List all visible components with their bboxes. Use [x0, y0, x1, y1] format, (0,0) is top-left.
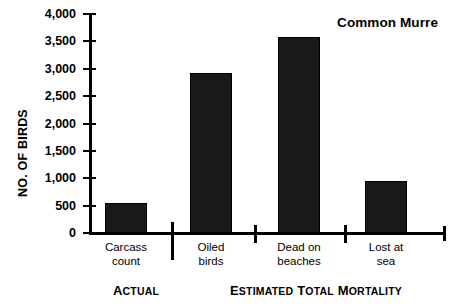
y-axis-tick-label-text: 4,000	[18, 8, 76, 21]
x-axis-category-label: Dead on beaches	[254, 240, 344, 268]
y-axis-tick	[83, 13, 96, 15]
y-axis-tick-label: 500	[18, 200, 76, 212]
y-axis-tick	[83, 177, 96, 179]
y-axis-tick	[83, 205, 96, 207]
y-axis-tick-label-text: 2,500	[18, 90, 76, 103]
y-axis-tick	[83, 123, 96, 125]
x-axis-tick-end	[443, 226, 446, 241]
y-axis-tick-label: 3,000	[18, 63, 76, 75]
group-label-actual: ACTUAL	[96, 283, 176, 298]
y-axis-tick-label: 2,500	[18, 90, 76, 102]
y-axis-tick-label-text: 3,000	[18, 63, 76, 76]
y-axis-tick-label-text: 500	[18, 200, 76, 213]
bar	[278, 37, 320, 233]
bar-chart: Common Murre NO. OF BIRDS 05001,0001,500…	[0, 0, 452, 308]
x-axis-category-label: Oiled birds	[166, 240, 256, 268]
y-axis-tick-label-text: 3,500	[18, 35, 76, 48]
y-axis-tick-label: 3,500	[18, 35, 76, 47]
y-axis-tick-label: 1,000	[18, 172, 76, 184]
y-axis-tick-label-text: 0	[18, 227, 76, 240]
y-axis-tick	[83, 40, 96, 42]
y-axis-tick-label: 0	[18, 227, 76, 239]
y-axis-tick-label-text: 1,500	[18, 145, 76, 158]
x-axis-category-label: Carcass count	[81, 240, 171, 268]
y-axis-tick-label-text: 2,000	[18, 118, 76, 131]
chart-title: Common Murre	[337, 15, 438, 30]
y-axis-tick-label: 1,500	[18, 145, 76, 157]
y-axis-tick	[83, 232, 96, 234]
bar	[190, 73, 232, 233]
group-label-estimated-text: ESTIMATED TOTAL MORTALITY	[230, 283, 402, 298]
group-label-actual-text: ACTUAL	[113, 283, 159, 298]
x-axis-category-label: Lost at sea	[341, 240, 431, 268]
bar	[365, 181, 407, 233]
y-axis-tick-label: 2,000	[18, 118, 76, 130]
bar	[105, 203, 147, 233]
y-axis-tick	[83, 150, 96, 152]
y-axis-tick-label-text: 1,000	[18, 172, 76, 185]
y-axis-tick-label: 4,000	[18, 8, 76, 20]
group-label-estimated: ESTIMATED TOTAL MORTALITY	[186, 283, 446, 298]
y-axis-tick	[83, 95, 96, 97]
y-axis-tick	[83, 68, 96, 70]
